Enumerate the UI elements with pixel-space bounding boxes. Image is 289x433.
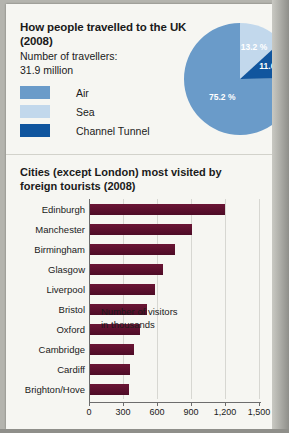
x-tick-label-900: 900 — [183, 407, 198, 417]
travellers-label: Number of travellers: — [20, 50, 180, 64]
pie-panel-subtitle: Number of travellers: 31.9 million — [20, 50, 180, 77]
legend-swatch-air — [20, 86, 50, 99]
pie-legend: Air Sea Channel Tunnel — [20, 83, 150, 140]
bar-category-label-liverpool: Liverpool — [46, 284, 85, 295]
pie-panel-title: How people travelled to the UK (2008) — [20, 20, 190, 48]
bar-category-label-cambridge: Cambridge — [39, 344, 85, 355]
bar-panel: Cities (except London) most visited by f… — [6, 155, 272, 429]
bar-category-label-edinburgh: Edinburgh — [42, 204, 85, 215]
legend-item-channel-tunnel: Channel Tunnel — [20, 121, 150, 140]
x-tick-label-0: 0 — [86, 407, 91, 417]
bar-manchester: Manchester — [90, 224, 192, 235]
bar-category-label-bristol: Bristol — [59, 304, 85, 315]
pie-panel: How people travelled to the UK (2008) Nu… — [6, 4, 272, 154]
bar-category-label-birmingham: Birmingham — [34, 244, 85, 255]
x-tick-900 — [191, 402, 192, 406]
bar-category-label-glasgow: Glasgow — [48, 264, 85, 275]
bar-birmingham: Birmingham — [90, 244, 175, 255]
x-tick-1200 — [225, 402, 226, 406]
page-edge-right — [272, 0, 289, 433]
legend-label-sea: Sea — [76, 106, 95, 118]
infographic-sheet: How people travelled to the UK (2008) Nu… — [6, 4, 272, 429]
bar-cardiff: Cardiff — [90, 364, 130, 375]
x-tick-label-300: 300 — [115, 407, 130, 417]
bar-panel-title: Cities (except London) most visited by f… — [20, 165, 260, 193]
bar-category-label-manchester: Manchester — [35, 224, 85, 235]
legend-item-sea: Sea — [20, 102, 150, 121]
annotation-line-1: Number of visitors — [101, 305, 178, 318]
pie-label-sea: 13.2 % — [241, 42, 267, 52]
legend-label-channel-tunnel: Channel Tunnel — [76, 125, 150, 137]
legend-swatch-sea — [20, 105, 50, 118]
x-tick-label-1200: 1,200 — [214, 407, 237, 417]
page-root: How people travelled to the UK (2008) Nu… — [0, 0, 289, 433]
legend-item-air: Air — [20, 83, 150, 102]
x-tick-300 — [123, 402, 124, 406]
travellers-value: 31.9 million — [20, 64, 180, 78]
bar-category-label-brighton-hove: Brighton/Hove — [25, 384, 85, 395]
bar-category-label-oxford: Oxford — [56, 324, 85, 335]
x-tick-1500 — [259, 402, 260, 406]
annotation-line-2: in thousands — [101, 318, 178, 331]
gridline-1200 — [225, 199, 226, 399]
bar-category-label-cardiff: Cardiff — [57, 364, 85, 375]
x-tick-600 — [157, 402, 158, 406]
legend-label-air: Air — [76, 87, 89, 99]
x-axis-line — [89, 402, 261, 403]
bar-edinburgh: Edinburgh — [90, 204, 225, 215]
chart-annotation: Number of visitors in thousands — [101, 305, 178, 331]
page-edge-bottom — [0, 429, 289, 433]
pie-label-air: 75.2 % — [209, 92, 235, 102]
legend-swatch-channel-tunnel — [20, 124, 50, 137]
bar-liverpool: Liverpool — [90, 284, 155, 295]
bar-cambridge: Cambridge — [90, 344, 134, 355]
bar-chart-plot: EdinburghManchesterBirminghamGlasgowLive… — [89, 199, 259, 399]
x-tick-label-1500: 1,500 — [248, 407, 271, 417]
bar-brighton-hove: Brighton/Hove — [90, 384, 129, 395]
bar-glasgow: Glasgow — [90, 264, 163, 275]
x-tick-0 — [89, 402, 90, 406]
gridline-1500 — [259, 199, 260, 399]
x-tick-label-600: 600 — [149, 407, 164, 417]
